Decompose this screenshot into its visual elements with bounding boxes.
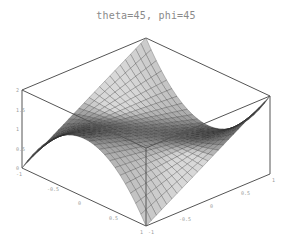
z-tick-label: 2 xyxy=(16,87,19,93)
y-tick-label: 1 xyxy=(272,177,275,183)
y-tick-label: 0 xyxy=(210,203,213,209)
surface-facet xyxy=(244,112,254,121)
surface-facet xyxy=(43,139,53,145)
surface-facet xyxy=(32,146,42,155)
surface-facet xyxy=(239,118,249,126)
surface-facet xyxy=(38,142,48,149)
surface-facet xyxy=(27,151,37,161)
z-tick-label: 1.5 xyxy=(16,107,25,113)
x-tick-label: 1 xyxy=(140,229,143,235)
z-tick-label: 1 xyxy=(16,126,19,132)
y-tick-label: -0.5 xyxy=(179,216,191,222)
x-tick-label: -0.5 xyxy=(47,186,59,192)
z-tick-label: 0 xyxy=(16,165,19,171)
z-tick-label: 0.5 xyxy=(16,146,25,152)
y-tick-label: 0.5 xyxy=(241,190,250,196)
x-tick-label: 0 xyxy=(78,200,81,206)
x-tick-label: 0.5 xyxy=(109,215,118,221)
x-tick-label: -1 xyxy=(16,171,22,177)
surface-facet xyxy=(22,156,32,168)
y-tick-label: -1 xyxy=(148,229,154,235)
surface-plot: -1-0.500.51-1-0.500.5100.511.52 xyxy=(0,0,292,238)
